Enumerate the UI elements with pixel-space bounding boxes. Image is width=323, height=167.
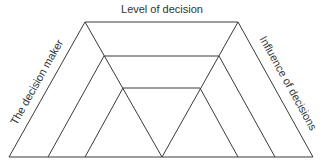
- inner-left-edge: [85, 88, 123, 157]
- right-label: Influence of decisions: [258, 34, 320, 133]
- outer-left-edge: [9, 22, 85, 157]
- left-label: The decision maker: [8, 37, 66, 127]
- outer-right-edge: [238, 22, 313, 157]
- inner-right-edge: [200, 88, 238, 157]
- middle-left-edge: [48, 56, 104, 157]
- top-label: Level of decision: [121, 3, 203, 15]
- middle-right-edge: [219, 56, 275, 157]
- decision-pyramid-diagram: Level of decision The decision maker Inf…: [0, 0, 323, 167]
